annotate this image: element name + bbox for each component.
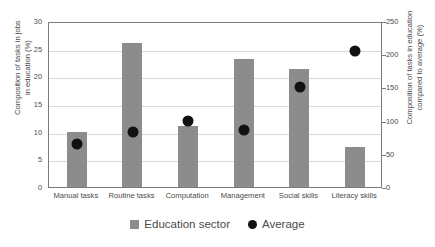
x-axis-category-labels: Manual tasksRoutine tasksComputationMana…: [48, 191, 382, 207]
dots-layer: [49, 23, 381, 187]
y-axis-right-tickmark: [382, 188, 386, 189]
y-axis-right-tick-250: 250: [386, 18, 406, 26]
y-axis-right-tick-50: 50: [386, 151, 406, 159]
data-point-dot[interactable]: [350, 45, 361, 56]
data-point-dot[interactable]: [71, 138, 82, 149]
x-axis-label-social-skills: Social skills: [271, 191, 327, 201]
legend: Education sector Average: [0, 218, 435, 230]
y-axis-left-tick-15: 15: [26, 101, 42, 109]
x-axis-label-manual-tasks: Manual tasks: [48, 191, 104, 201]
y-axis-left-title-line1: Composition of tasks in jobs: [13, 20, 22, 115]
x-axis-label-literacy-skills: Literacy skills: [326, 191, 382, 201]
y-axis-left-tick-30: 30: [26, 18, 42, 26]
x-axis-label-management: Management: [215, 191, 271, 201]
y-axis-left-tick-20: 20: [26, 73, 42, 81]
y-axis-right-tick-150: 150: [386, 84, 406, 92]
y-axis-right-tick-100: 100: [386, 118, 406, 126]
y-axis-left-tick-10: 10: [26, 129, 42, 137]
legend-item-education-sector[interactable]: Education sector: [130, 218, 230, 230]
y-axis-left-tick-0: 0: [26, 184, 42, 192]
legend-item-average[interactable]: Average: [248, 218, 305, 230]
y-axis-right-tick-0: 0: [386, 184, 406, 192]
legend-label-education-sector: Education sector: [144, 218, 230, 230]
plot-area: [48, 22, 382, 188]
x-axis-label-routine-tasks: Routine tasks: [104, 191, 160, 201]
legend-dot-icon: [248, 220, 257, 229]
data-point-dot[interactable]: [294, 81, 305, 92]
data-point-dot[interactable]: [183, 116, 194, 127]
y-axis-left-tick-25: 25: [26, 46, 42, 54]
y-axis-right-title: Composition of tasks in educationcompare…: [405, 0, 424, 143]
legend-square-icon: [130, 220, 139, 229]
data-point-dot[interactable]: [238, 124, 249, 135]
data-point-dot[interactable]: [127, 126, 138, 137]
y-axis-right-title-line1: Composition of tasks in education: [405, 11, 414, 125]
x-axis-label-computation: Computation: [159, 191, 215, 201]
y-axis-left-tick-5: 5: [26, 156, 42, 164]
y-axis-right-tick-200: 200: [386, 51, 406, 59]
y-axis-right-title-line2: compared to average (%): [415, 25, 424, 111]
legend-label-average: Average: [262, 218, 305, 230]
chart-container: Composition of tasks in jobsin education…: [0, 0, 435, 247]
